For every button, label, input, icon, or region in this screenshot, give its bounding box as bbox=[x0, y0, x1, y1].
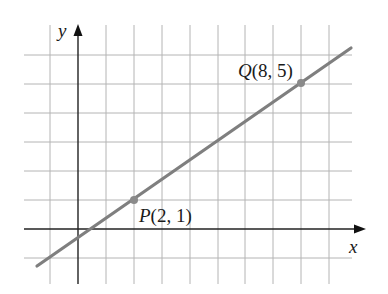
point-p bbox=[130, 196, 138, 204]
y-axis-label: y bbox=[56, 20, 67, 41]
coordinate-plane: y x P(2, 1) Q(8, 5) bbox=[0, 0, 388, 294]
x-axis-arrow-icon bbox=[354, 225, 366, 234]
x-axis-label: x bbox=[348, 236, 358, 257]
grid bbox=[24, 25, 352, 284]
point-p-label: P(2, 1) bbox=[138, 205, 192, 227]
point-q bbox=[297, 79, 305, 87]
x-axis bbox=[24, 225, 366, 234]
point-p-name: P bbox=[138, 205, 151, 226]
point-p-coords: (2, 1) bbox=[151, 205, 192, 227]
y-axis bbox=[74, 24, 83, 284]
y-axis-arrow-icon bbox=[74, 24, 83, 36]
point-q-name: Q bbox=[238, 60, 252, 81]
point-q-coords: (8, 5) bbox=[252, 60, 293, 82]
point-q-label: Q(8, 5) bbox=[238, 60, 293, 82]
